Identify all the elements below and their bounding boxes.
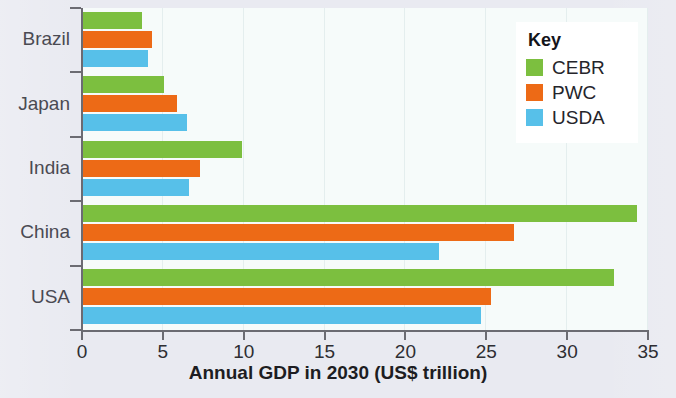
chart-page: 05101520253035 BrazilJapanIndiaChinaUSA … [0, 0, 676, 398]
y-category-label-brazil: Brazil [10, 28, 82, 50]
bar-pwc-japan [82, 95, 177, 112]
bar-cebr-india [82, 141, 242, 158]
x-tick [566, 332, 568, 340]
bar-pwc-brazil [82, 31, 152, 48]
x-tick [647, 332, 649, 340]
bar-pwc-india [82, 160, 200, 177]
legend-item-pwc: PWC [526, 83, 630, 102]
bar-cebr-usa [82, 269, 614, 286]
gridline [647, 8, 648, 331]
legend-swatch-icon [526, 59, 543, 76]
bar-pwc-usa [82, 288, 491, 305]
y-axis-category-labels: BrazilJapanIndiaChinaUSA [0, 0, 82, 340]
x-tick-label: 20 [385, 341, 425, 363]
x-axis-line [81, 330, 649, 332]
x-tick-label: 5 [143, 341, 183, 363]
legend-swatch-icon [526, 84, 543, 101]
bar-usda-brazil [82, 50, 148, 67]
legend-items: CEBRPWCUSDA [526, 58, 630, 127]
bar-pwc-china [82, 224, 514, 241]
bar-usda-usa [82, 307, 481, 324]
legend-label: PWC [552, 83, 596, 102]
x-tick [324, 332, 326, 340]
bar-usda-india [82, 179, 189, 196]
y-category-label-china: China [10, 221, 82, 243]
x-tick [485, 332, 487, 340]
x-tick-label: 25 [466, 341, 506, 363]
legend-swatch-icon [526, 109, 543, 126]
bar-cebr-brazil [82, 12, 142, 29]
x-tick-label: 30 [547, 341, 587, 363]
legend: Key CEBRPWCUSDA [516, 22, 638, 143]
legend-item-usda: USDA [526, 108, 630, 127]
y-category-label-india: India [10, 157, 82, 179]
x-tick-label: 10 [224, 341, 264, 363]
x-axis-title: Annual GDP in 2030 (US$ trillion) [0, 362, 676, 384]
legend-title: Key [528, 30, 630, 51]
bar-cebr-china [82, 205, 637, 222]
x-tick-label: 15 [305, 341, 345, 363]
legend-label: CEBR [552, 58, 605, 77]
bar-cebr-japan [82, 76, 164, 93]
legend-label: USDA [552, 108, 605, 127]
y-category-label-usa: USA [10, 286, 82, 308]
x-tick-label: 0 [62, 341, 102, 363]
x-tick [243, 332, 245, 340]
x-tick [162, 332, 164, 340]
legend-item-cebr: CEBR [526, 58, 630, 77]
x-tick-label: 35 [628, 341, 668, 363]
bar-usda-china [82, 243, 439, 260]
x-tick [404, 332, 406, 340]
bar-usda-japan [82, 114, 187, 131]
y-category-label-japan: Japan [10, 93, 82, 115]
